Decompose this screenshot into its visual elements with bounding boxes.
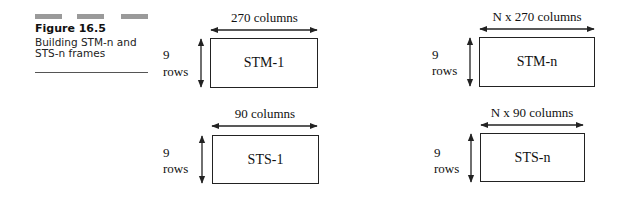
sts1-rows-label: rows (163, 162, 188, 176)
stsn-rows-number: 9 (434, 146, 441, 160)
stmn-rows-label: rows (432, 64, 457, 78)
stm1-columns-label: 270 columns (211, 10, 318, 26)
stm1-rows-label: rows (163, 65, 188, 79)
stm1-frame-box: STM-1 (210, 38, 318, 88)
sts1-columns-label: 90 columns (212, 106, 318, 122)
stmn-columns-label: N x 270 columns (479, 9, 595, 25)
sts1-frame-box: STS-1 (212, 135, 319, 184)
stmn-frame-box: STM-n (479, 37, 595, 87)
stsn-frame-box: STS-n (480, 133, 585, 182)
stsn-columns-label: N x 90 columns (480, 105, 584, 121)
stmn-rows-number: 9 (432, 48, 439, 62)
sts1-rows-number: 9 (163, 146, 170, 160)
stm1-rows-number: 9 (163, 48, 170, 62)
stsn-rows-label: rows (434, 162, 459, 176)
